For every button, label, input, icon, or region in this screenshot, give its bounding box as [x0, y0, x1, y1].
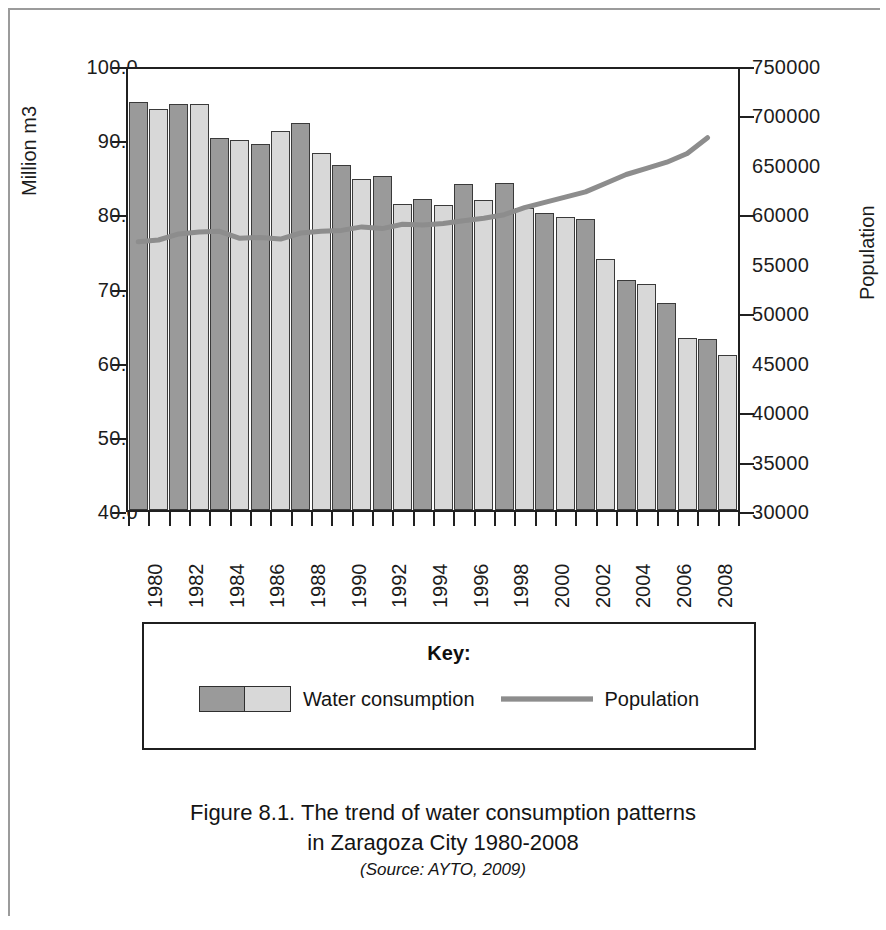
x-tick-mark: [128, 512, 130, 526]
line-swatch-icon: [501, 696, 593, 702]
x-tick-label-2006: 2006: [674, 564, 694, 609]
x-tick-mark: [270, 512, 272, 526]
x-tick-mark: [616, 512, 618, 526]
x-tick-label-1986: 1986: [267, 564, 287, 609]
x-tick-label-1998: 1998: [511, 564, 531, 609]
x-tick-mark: [169, 512, 171, 526]
population-line-layer: [128, 69, 738, 510]
x-tick-label-2004: 2004: [633, 564, 653, 609]
x-tick-label-1980: 1980: [145, 564, 165, 609]
x-tick-mark: [291, 512, 293, 526]
population-line: [128, 69, 738, 510]
x-tick-mark: [311, 512, 313, 526]
y-tick-mark-left: [112, 215, 126, 217]
x-tick-label-2000: 2000: [552, 564, 572, 609]
y-tick-mark-right: [740, 463, 754, 465]
bar-swatch-light: [245, 687, 290, 711]
y-tick-right-700000: 700000: [752, 106, 872, 126]
figure-caption: Figure 8.1. The trend of water consumpti…: [93, 798, 793, 882]
x-axis-labels: 1980198219841986198819901992199419961998…: [126, 530, 740, 610]
legend-entries: Water consumption Population: [144, 686, 754, 712]
y-tick-mark-right: [740, 413, 754, 415]
x-tick-mark: [392, 512, 394, 526]
x-tick-mark: [474, 512, 476, 526]
y-tick-mark-left: [112, 438, 126, 440]
legend-entry-water-consumption: Water consumption: [199, 686, 475, 712]
x-tick-label-1994: 1994: [430, 564, 450, 609]
x-tick-mark: [189, 512, 191, 526]
y-tick-right-750000: 750000: [752, 57, 872, 77]
y-tick-mark-left: [112, 67, 126, 69]
y-tick-right-60000: 60000: [752, 205, 872, 225]
x-tick-mark: [433, 512, 435, 526]
y-tick-mark-right: [740, 314, 754, 316]
x-tick-mark: [718, 512, 720, 526]
x-tick-mark: [636, 512, 638, 526]
y-tick-mark-left: [112, 364, 126, 366]
bar-swatch-icon: [199, 686, 291, 712]
y-tick-mark-left: [112, 512, 126, 514]
caption-line-1: Figure 8.1. The trend of water consumpti…: [93, 798, 793, 828]
x-tick-label-2008: 2008: [715, 564, 735, 609]
x-tick-label-1988: 1988: [308, 564, 328, 609]
x-tick-mark: [209, 512, 211, 526]
y-tick-mark-left: [112, 141, 126, 143]
x-tick-mark: [148, 512, 150, 526]
x-tick-mark: [535, 512, 537, 526]
x-tick-mark: [596, 512, 598, 526]
x-tick-mark: [575, 512, 577, 526]
y-tick-right-55000: 55000: [752, 255, 872, 275]
x-tick-mark: [738, 512, 740, 526]
x-tick-label-2002: 2002: [593, 564, 613, 609]
x-tick-mark: [250, 512, 252, 526]
legend-title: Key:: [144, 642, 754, 665]
y-tick-mark-right: [740, 512, 754, 514]
y-tick-mark-left: [112, 290, 126, 292]
x-tick-mark: [697, 512, 699, 526]
y-tick-right-30000: 30000: [752, 502, 872, 522]
y-tick-mark-right: [740, 215, 754, 217]
x-tick-mark: [677, 512, 679, 526]
legend-entry-population: Population: [501, 688, 700, 711]
figure-page: Million m3 Population 40.050.060.070.080…: [0, 0, 886, 930]
x-tick-mark: [453, 512, 455, 526]
y-tick-mark-right: [740, 116, 754, 118]
y-tick-right-40000: 40000: [752, 403, 872, 423]
y-tick-right-650000: 650000: [752, 156, 872, 176]
y-tick-right-35000: 35000: [752, 453, 872, 473]
x-tick-mark: [657, 512, 659, 526]
x-tick-mark: [555, 512, 557, 526]
x-tick-mark: [230, 512, 232, 526]
plot-area: [126, 67, 740, 512]
x-tick-label-1984: 1984: [227, 564, 247, 609]
legend-label-population: Population: [605, 688, 700, 711]
x-tick-mark: [352, 512, 354, 526]
bar-swatch-dark: [200, 687, 245, 711]
x-tick-label-1990: 1990: [349, 564, 369, 609]
x-tick-mark: [413, 512, 415, 526]
x-tick-mark: [494, 512, 496, 526]
x-tick-mark: [514, 512, 516, 526]
x-axis-ticks: [126, 512, 740, 526]
y-tick-right-50000: 50000: [752, 304, 872, 324]
y-tick-right-45000: 45000: [752, 354, 872, 374]
x-tick-mark: [331, 512, 333, 526]
x-tick-label-1982: 1982: [186, 564, 206, 609]
chart-legend: Key: Water consumption Population: [142, 622, 756, 750]
legend-label-water-consumption: Water consumption: [303, 688, 475, 711]
y-axis-label-left: Million m3: [18, 56, 41, 196]
figure-container: Million m3 Population 40.050.060.070.080…: [0, 0, 886, 930]
caption-line-2: in Zaragoza City 1980-2008: [93, 828, 793, 858]
x-tick-label-1992: 1992: [389, 564, 409, 609]
y-tick-mark-right: [740, 67, 754, 69]
x-tick-mark: [372, 512, 374, 526]
caption-source: (Source: AYTO, 2009): [93, 858, 793, 882]
x-tick-label-1996: 1996: [471, 564, 491, 609]
